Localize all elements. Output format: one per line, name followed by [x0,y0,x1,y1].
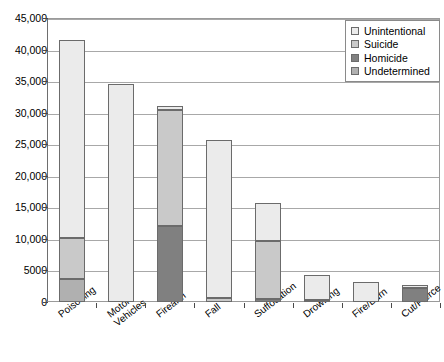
bar-segment-unintentional[interactable] [353,282,379,302]
bar-segment-suicide[interactable] [59,238,85,279]
bar-segment-homicide[interactable] [255,299,281,302]
gridline [48,114,439,115]
x-axis-tick-mark [96,303,97,308]
bar-segment-homicide[interactable] [304,300,330,302]
bar-segment-unintentional[interactable] [304,275,330,300]
bar-segment-unintentional[interactable] [157,106,183,110]
y-axis-tick-label: 15,000 [5,202,47,212]
y-axis-tick-mark [43,144,48,145]
bar-segment-homicide[interactable] [157,226,183,302]
y-axis-tick-label: 35,000 [5,76,47,86]
y-axis-tick-label: 30,000 [5,108,47,118]
gridline [48,271,439,272]
x-axis-label-fall: Fall [203,301,222,320]
bar-poisoning[interactable] [59,18,85,302]
bar-drowning[interactable] [304,18,330,302]
y-axis-tick-mark [43,176,48,177]
bar-chart: 0500010,00015,00020,00025,00030,00035,00… [0,0,444,362]
gridline [48,82,439,83]
x-axis-tick-mark [244,303,245,308]
bar-segment-unintentional[interactable] [402,285,428,288]
x-axis-tick-mark [194,303,195,308]
bar-fire-burn[interactable] [353,18,379,302]
gridline [48,145,439,146]
bar-firearm[interactable] [157,18,183,302]
bar-segment-unintentional[interactable] [206,140,232,297]
bar-segment-suicide[interactable] [206,298,232,302]
y-axis: 0500010,00015,00020,00025,00030,00035,00… [0,0,47,320]
y-axis-tick-mark [43,18,48,19]
bar-segment-unintentional[interactable] [108,84,134,302]
bar-fall[interactable] [206,18,232,302]
x-axis-tick-mark [342,303,343,308]
y-axis-tick-label: 40,000 [5,45,47,55]
x-axis-tick-mark [293,303,294,308]
bar-motor-vehicles[interactable] [108,18,134,302]
bar-segment-unintentional[interactable] [255,203,281,241]
x-axis-tick-mark [391,303,392,308]
y-axis-tick-label: 10,000 [5,234,47,244]
y-axis-tick-label: 45,000 [5,13,47,23]
y-axis-tick-mark [43,113,48,114]
bar-segment-undetermined[interactable] [59,279,85,302]
bar-cut-pierce[interactable] [402,18,428,302]
y-axis-tick-mark [43,239,48,240]
bar-segment-homicide[interactable] [402,288,428,302]
gridline [48,177,439,178]
y-axis-tick-mark [43,270,48,271]
y-axis-tick-label: 25,000 [5,139,47,149]
bar-segment-suicide[interactable] [157,110,183,226]
y-axis-tick-mark [43,302,48,303]
bar-segment-suicide[interactable] [255,241,281,300]
bar-suffocation[interactable] [255,18,281,302]
y-axis-tick-mark [43,207,48,208]
x-axis-tick-mark [440,303,441,308]
y-axis-tick-label: 20,000 [5,171,47,181]
y-axis-tick-mark [43,50,48,51]
gridline [48,240,439,241]
x-axis-tick-mark [145,303,146,308]
bar-segment-unintentional[interactable] [59,40,85,238]
y-axis-tick-mark [43,81,48,82]
y-axis-tick-label: 0 [5,297,47,307]
y-axis-tick-label: 5000 [5,265,47,275]
gridline [48,208,439,209]
